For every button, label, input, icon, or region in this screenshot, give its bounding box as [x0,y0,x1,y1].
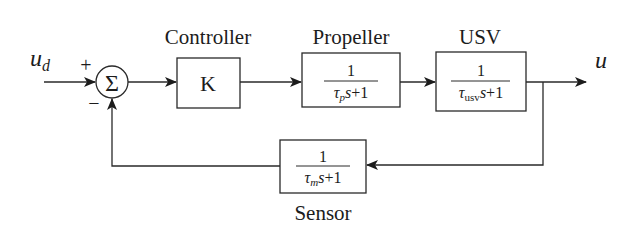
sensor-title: Sensor [294,201,351,225]
controller-block: Controller K [165,25,251,108]
sensor-to-sum-arrow [112,99,280,166]
block-diagram: ud Σ + − Controller K Propeller 1 τps+1 … [0,0,632,237]
minus-sign: − [88,92,99,114]
propeller-numerator: 1 [347,62,355,79]
sensor-numerator: 1 [319,148,327,165]
input-label: ud [30,45,51,74]
propeller-title: Propeller [313,25,390,49]
sigma-symbol: Σ [105,70,119,96]
sensor-denominator: τms+1 [305,169,342,188]
usv-title: USV [459,25,501,49]
summing-junction: Σ + − [80,54,128,114]
propeller-block: Propeller 1 τps+1 [302,25,400,107]
controller-gain: K [200,71,216,96]
controller-title: Controller [165,25,251,49]
propeller-denominator: τps+1 [334,84,369,103]
usv-numerator: 1 [477,62,485,79]
sensor-block: 1 τms+1 Sensor [280,140,366,225]
output-label: u [595,47,607,73]
usv-block: USV 1 τusvs+1 [436,25,526,111]
plus-sign: + [80,54,91,76]
output-signal: u [526,47,607,82]
